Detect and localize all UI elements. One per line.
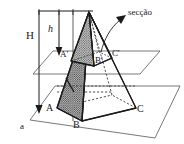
upper-pyramid-left-face <box>71 12 94 66</box>
height-arrowhead-H <box>35 105 42 114</box>
label-partial-height: h <box>48 24 53 34</box>
pyramid-section-diagram <box>0 0 184 144</box>
label-section-vertex-c-prime: C' <box>112 49 120 58</box>
label-section-vertex-b-prime: B' <box>95 56 103 65</box>
label-section-annotation: secção <box>128 8 152 17</box>
label-base-plane: a <box>20 122 24 131</box>
label-base-vertex-b: B <box>73 120 80 130</box>
lower-pyramid-base-edge-BC <box>82 108 136 121</box>
label-base-vertex-a: A <box>46 103 53 113</box>
label-total-height: H <box>26 30 34 41</box>
label-base-vertex-c: C <box>137 104 144 114</box>
label-section-vertex-a-prime: A' <box>60 50 68 59</box>
